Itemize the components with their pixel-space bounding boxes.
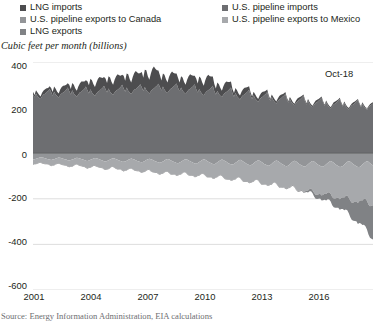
x-tick-2001: 2001 <box>14 291 54 302</box>
legend-swatch-pipeline-exports-canada <box>20 17 26 23</box>
y-tick-200: 200 <box>0 105 27 115</box>
legend-item-pipeline-imports: U.S. pipeline imports <box>222 2 318 13</box>
chart-legend: LNG imports U.S. pipeline exports to Can… <box>0 0 373 38</box>
legend-label-pipeline-exports-mexico: U.S. pipeline exports to Mexico <box>232 14 360 25</box>
legend-item-pipeline-exports-canada: U.S. pipeline exports to Canada <box>20 14 161 25</box>
x-tick-2004: 2004 <box>71 291 111 302</box>
plot-area <box>33 62 373 290</box>
y-tick-neg600: -600 <box>0 281 27 291</box>
legend-label-pipeline-exports-canada: U.S. pipeline exports to Canada <box>30 14 161 25</box>
y-tick-400: 400 <box>0 61 27 71</box>
legend-label-lng-exports: LNG exports <box>30 26 82 37</box>
x-tick-2007: 2007 <box>128 291 168 302</box>
annotation-oct-18: Oct-18 <box>325 68 353 79</box>
x-tick-2010: 2010 <box>185 291 225 302</box>
y-tick-0: 0 <box>0 150 27 160</box>
legend-swatch-lng-exports <box>20 29 26 35</box>
legend-item-lng-imports: LNG imports <box>20 2 82 13</box>
stacked-area-chart <box>33 62 373 290</box>
y-tick-neg200: -200 <box>0 193 27 203</box>
source-note: Source: Energy Information Administratio… <box>1 311 212 321</box>
legend-swatch-lng-imports <box>20 5 26 11</box>
y-tick-neg400: -400 <box>0 237 27 247</box>
x-tick-2013: 2013 <box>242 291 282 302</box>
legend-item-lng-exports: LNG exports <box>20 26 82 37</box>
legend-label-pipeline-imports: U.S. pipeline imports <box>232 2 318 13</box>
legend-swatch-pipeline-exports-mexico <box>222 17 228 23</box>
x-tick-2016: 2016 <box>299 291 339 302</box>
legend-swatch-pipeline-imports <box>222 5 228 11</box>
y-axis-title: Cubic feet per month (billions) <box>1 40 127 51</box>
legend-item-pipeline-exports-mexico: U.S. pipeline exports to Mexico <box>222 14 360 25</box>
legend-label-lng-imports: LNG imports <box>30 2 82 13</box>
